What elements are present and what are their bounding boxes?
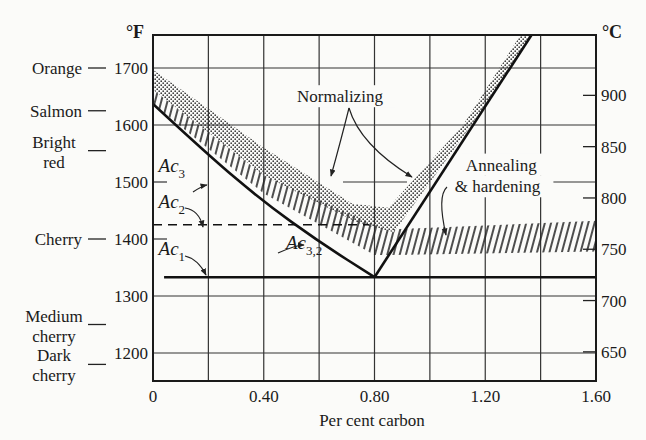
fahrenheit-unit-label: °F [126, 22, 144, 42]
y-tick-label-f: 1600 [114, 116, 148, 135]
iron-carbon-heat-treatment-chart: °F170016001500140013001200 °C90085080075… [0, 0, 646, 440]
ac1-arrow [185, 256, 206, 275]
y-tick-label-f: 1700 [114, 59, 148, 78]
color-scale-label: red [43, 153, 65, 172]
x-tick-label: 0.40 [249, 387, 279, 406]
color-scale-label: Medium [25, 307, 83, 326]
color-scale-label: cherry [32, 366, 76, 385]
ac-label: Ac3 [157, 155, 186, 181]
y-tick-label-f: 1300 [114, 287, 148, 306]
annealing-band [394, 221, 596, 255]
process-label: Normalizing [297, 87, 383, 106]
x-tick-label: 1.20 [470, 387, 500, 406]
color-scale-label: Salmon [30, 102, 82, 121]
y-tick-label-c: 850 [601, 138, 627, 157]
process-label: & hardening [455, 177, 541, 196]
color-scale-label: cherry [32, 327, 76, 346]
normalizing-arrow-right [349, 108, 412, 177]
ac-label: Ac2 [157, 191, 186, 217]
y-tick-label-c: 800 [601, 189, 627, 208]
x-axis-title: Per cent carbon [319, 411, 425, 430]
color-scale-label: Orange [32, 59, 82, 78]
y-tick-label-c: 700 [601, 292, 627, 311]
process-label: Annealing [466, 156, 537, 175]
fahrenheit-axis: °F170016001500140013001200 [114, 22, 148, 363]
ac3-arrow [193, 185, 207, 192]
y-tick-label-c: 900 [601, 86, 627, 105]
color-scale-label: Dark [37, 346, 71, 365]
y-tick-label-c: 750 [601, 240, 627, 259]
celsius-axis: °C900850800750700650 [583, 22, 627, 362]
x-tick-label: 0 [149, 387, 158, 406]
ac-label: Ac1 [157, 238, 186, 264]
celsius-unit-label: °C [602, 22, 622, 42]
x-tick-label: 1.60 [581, 387, 611, 406]
color-scale-label: Cherry [35, 230, 83, 249]
y-tick-label-f: 1400 [114, 230, 148, 249]
y-tick-label-f: 1500 [114, 173, 148, 192]
normalizing-arrow-left [331, 108, 349, 176]
y-tick-label-c: 650 [601, 343, 627, 362]
x-tick-label: 0.80 [360, 387, 390, 406]
temper-color-scale: OrangeSalmonBrightredCherryMediumcherryD… [25, 59, 106, 385]
carbon-axis: 00.400.801.201.60Per cent carbon [149, 387, 611, 430]
y-tick-label-f: 1200 [114, 344, 148, 363]
color-scale-label: Bright [32, 133, 76, 152]
